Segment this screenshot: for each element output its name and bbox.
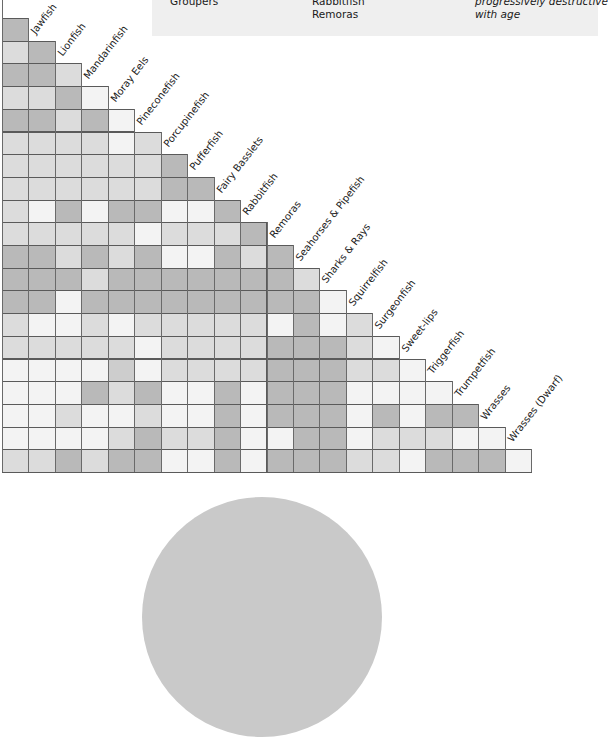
matrix-cell	[293, 268, 320, 292]
matrix-cell	[452, 449, 479, 473]
matrix-cell	[293, 290, 320, 314]
matrix-cell	[81, 132, 108, 156]
matrix-cell	[214, 404, 241, 428]
matrix-cell	[425, 404, 452, 428]
matrix-cell	[240, 336, 267, 360]
column-label: Trumpetfish	[452, 346, 497, 399]
matrix-cell	[108, 381, 135, 405]
matrix-cell	[108, 177, 135, 201]
matrix-cell	[214, 449, 241, 473]
matrix-cell	[28, 41, 55, 65]
matrix-cell	[55, 86, 82, 110]
matrix-cell	[2, 449, 29, 473]
matrix-cell	[55, 313, 82, 337]
matrix-cell	[214, 200, 241, 224]
matrix-cell	[55, 200, 82, 224]
matrix-cell	[267, 427, 294, 451]
matrix-cell	[478, 427, 505, 451]
matrix-cell	[346, 404, 373, 428]
matrix-cell	[346, 381, 373, 405]
matrix-cell	[134, 449, 161, 473]
matrix-cell	[214, 313, 241, 337]
matrix-cell	[267, 313, 294, 337]
matrix-cell	[55, 359, 82, 383]
matrix-cell	[399, 449, 426, 473]
matrix-cell	[28, 154, 55, 178]
matrix-cell	[161, 404, 188, 428]
matrix-cell	[214, 427, 241, 451]
matrix-cell	[240, 359, 267, 383]
matrix-cell	[346, 359, 373, 383]
column-label: Mandarinfish	[82, 23, 130, 81]
matrix-cell	[346, 427, 373, 451]
matrix-cell	[55, 404, 82, 428]
matrix-cell	[108, 109, 135, 133]
matrix-cell	[108, 427, 135, 451]
column-label: Moray Eels	[108, 54, 150, 104]
matrix-cell	[28, 200, 55, 224]
matrix-cell	[187, 268, 214, 292]
matrix-cell	[161, 359, 188, 383]
matrix-cell	[2, 313, 29, 337]
grid-line	[452, 381, 453, 472]
matrix-cell	[187, 222, 214, 246]
matrix-cell	[267, 268, 294, 292]
grid-line	[28, 18, 29, 472]
matrix-cell	[55, 132, 82, 156]
matrix-cell	[293, 313, 320, 337]
column-label: Sweet-lips	[399, 306, 439, 353]
matrix-cell	[161, 200, 188, 224]
matrix-cell	[267, 336, 294, 360]
matrix-cell	[187, 177, 214, 201]
matrix-cell	[134, 177, 161, 201]
matrix-cell	[108, 404, 135, 428]
matrix-cell	[28, 359, 55, 383]
column-label: Pufferfish	[187, 128, 225, 172]
grid-line	[267, 222, 268, 472]
matrix-cell	[81, 177, 108, 201]
grid-line	[161, 132, 162, 473]
matrix-cell	[267, 290, 294, 314]
matrix-cell	[108, 132, 135, 156]
matrix-cell	[187, 359, 214, 383]
matrix-cell	[319, 381, 346, 405]
matrix-cell	[134, 290, 161, 314]
matrix-cell	[55, 268, 82, 292]
column-label: Pineconefish	[135, 70, 182, 126]
matrix-cell	[372, 359, 399, 383]
matrix-cell	[161, 154, 188, 178]
matrix-cell	[55, 63, 82, 87]
matrix-cell	[134, 359, 161, 383]
matrix-cell	[319, 290, 346, 314]
matrix-cell	[28, 86, 55, 110]
matrix-cell	[399, 404, 426, 428]
matrix-cell	[267, 245, 294, 269]
matrix-cell	[319, 404, 346, 428]
matrix-cell	[134, 200, 161, 224]
matrix-cell	[81, 268, 108, 292]
matrix-cell	[267, 381, 294, 405]
grid-line	[108, 86, 109, 472]
matrix-cell	[55, 336, 82, 360]
matrix-cell	[2, 359, 29, 383]
matrix-cell	[2, 63, 29, 87]
matrix-cell	[399, 427, 426, 451]
grid-line	[55, 41, 56, 472]
matrix-cell	[81, 290, 108, 314]
matrix-cell	[267, 449, 294, 473]
matrix-cell	[2, 268, 29, 292]
matrix-cell	[28, 222, 55, 246]
matrix-cell	[319, 359, 346, 383]
matrix-cell	[399, 359, 426, 383]
matrix-cell	[187, 427, 214, 451]
grid-line	[214, 177, 215, 472]
matrix-cell	[240, 404, 267, 428]
matrix-cell	[187, 290, 214, 314]
matrix-cell	[28, 63, 55, 87]
matrix-cell	[81, 313, 108, 337]
column-label: Lionfish	[55, 21, 87, 58]
matrix-cell	[425, 449, 452, 473]
matrix-cell	[108, 154, 135, 178]
matrix-cell	[108, 268, 135, 292]
matrix-cell	[134, 154, 161, 178]
